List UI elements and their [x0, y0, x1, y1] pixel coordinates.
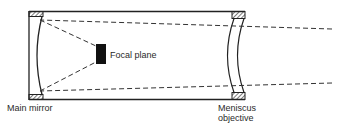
main-mirror [37, 17, 42, 95]
meniscus-label-line1: Meniscus [218, 103, 256, 113]
meniscus-mount [232, 12, 245, 100]
focal-plane-block [96, 44, 106, 64]
meniscus-label-line2: objective [218, 113, 254, 123]
meniscus-objective-lens [228, 19, 245, 93]
main-mirror-label: Main mirror [7, 103, 53, 113]
main-mirror-mount [29, 12, 43, 100]
telescope-diagram [0, 0, 342, 133]
light-rays [40, 20, 332, 91]
focal-plane-label: Focal plane [110, 50, 157, 60]
